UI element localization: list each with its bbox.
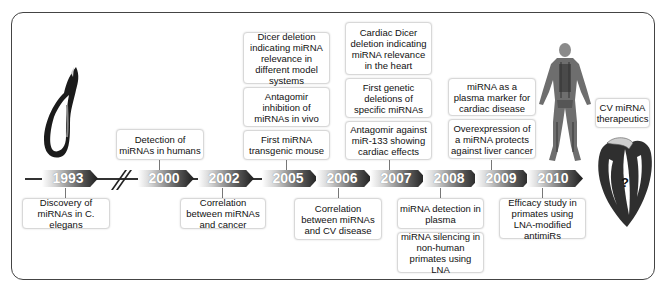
event-box-2002: Correlation between miRNAs and cancer <box>180 198 266 229</box>
year-badge-2006: 2006 <box>316 170 372 187</box>
event-box-2007-1: Cardiac Dicer deletion indicating miRNA … <box>345 22 432 75</box>
year-badge-2010: 2010 <box>527 170 583 187</box>
stem-2008 <box>440 188 441 198</box>
year-badge-2005: 2005 <box>262 170 318 187</box>
event-box-future: CV miRNA therapeutics <box>595 98 650 128</box>
event-box-2005-3: First miRNA transgenic mouse <box>243 130 330 160</box>
event-box-2000: Detection of miRNAs in humans <box>116 129 204 160</box>
event-box-2008-1: miRNA detection in plasma <box>397 198 484 229</box>
year-badge-1993: 1993 <box>42 170 98 187</box>
c-elegans-worm-illustration <box>36 65 86 165</box>
event-box-2005-1: Dicer deletion indicating miRNA relevanc… <box>243 32 330 84</box>
year-badge-2000: 2000 <box>138 170 194 187</box>
stem-2009 <box>491 160 492 170</box>
event-box-2009-1: miRNA as a plasma marker for cardiac dis… <box>448 78 536 116</box>
stem-2000 <box>159 160 160 170</box>
event-box-2008-2: miRNA silencing in non-human primates us… <box>397 232 484 273</box>
event-box-2009-2: Overexpression of a miRNA protects again… <box>448 119 536 159</box>
year-badge-2002: 2002 <box>198 170 254 187</box>
stem-2006 <box>338 188 339 198</box>
event-box-2010: Efficacy study in primates using LNA-mod… <box>499 198 586 239</box>
event-box-2005-2: Antagomir inhibition of miRNAs in vivo <box>243 87 330 127</box>
heart-illustration: ? <box>595 135 655 230</box>
event-box-2007-3: Antagomir against miR-133 showing cardia… <box>345 121 432 160</box>
stem-2007 <box>389 160 390 170</box>
year-badge-2008: 2008 <box>423 170 479 187</box>
year-badge-2009: 2009 <box>475 170 531 187</box>
event-box-1993: Discovery of miRNAs in C. elegans <box>22 198 110 229</box>
stem-2005 <box>286 160 287 170</box>
heart-question-label: ? <box>621 175 629 190</box>
year-badge-2007: 2007 <box>370 170 426 187</box>
event-box-2007-2: First genetic deletions of specific miRN… <box>345 78 432 118</box>
human-anatomy-illustration <box>535 42 595 167</box>
event-box-2006: Correlation between miRNAs and CV diseas… <box>294 198 382 240</box>
